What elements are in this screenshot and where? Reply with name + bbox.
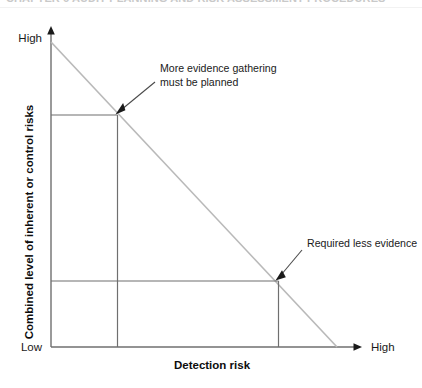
y-axis-arrow-icon <box>47 26 55 35</box>
annotation-more-evidence-leader-line <box>121 82 155 110</box>
x-axis-title: Detection risk <box>174 359 251 371</box>
y-axis-title: Combined level of inherent or control ri… <box>23 105 35 340</box>
annotation-more-evidence: More evidence gathering must be planned <box>116 62 277 115</box>
high-risk-low-detection-box <box>51 115 118 347</box>
annotation-more-evidence-line2: must be planned <box>160 76 238 88</box>
y-axis-low-label: Low <box>21 341 43 353</box>
risk-relationship-diagram: High Low High Detection risk Combined le… <box>0 0 422 388</box>
annotation-less-evidence-line1: Required less evidence <box>307 237 417 249</box>
annotation-more-evidence-arrow-icon <box>116 103 126 115</box>
annotation-more-evidence-line1: More evidence gathering <box>160 62 277 74</box>
x-axis-high-label: High <box>371 341 395 353</box>
annotation-less-evidence-leader-line <box>281 250 302 275</box>
low-risk-high-detection-box <box>51 281 279 347</box>
axes-group <box>47 26 362 351</box>
annotation-less-evidence: Required less evidence <box>276 237 418 281</box>
y-axis-high-label: High <box>18 32 42 44</box>
x-axis-arrow-icon <box>354 343 363 351</box>
figure-canvas: CHAPTER 6 AUDIT PLANNING AND RISK ASSESS… <box>0 0 422 388</box>
